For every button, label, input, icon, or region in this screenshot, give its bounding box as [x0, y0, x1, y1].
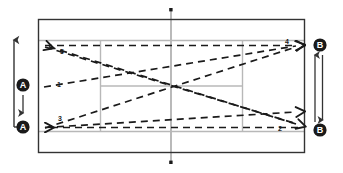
shot-label-1: 1: [57, 81, 61, 88]
marker-b-bottom-label: B: [317, 125, 324, 135]
right-movement-arrow: [315, 55, 323, 122]
net-post-bottom-icon: [169, 161, 172, 164]
marker-a-top[interactable]: A: [16, 78, 29, 91]
shot-path-1: [44, 46, 296, 87]
marker-a-bottom[interactable]: A: [16, 120, 29, 133]
court-drill-diagram: 1 2 3 4 5 A A: [0, 0, 343, 173]
court-diagram-svg: 1 2 3 4 5 A A: [0, 0, 343, 173]
marker-a-top-label: A: [20, 80, 27, 90]
shot-label-3: 3: [58, 115, 62, 122]
shot-label-5: 5: [60, 48, 64, 55]
marker-b-bottom[interactable]: B: [313, 123, 326, 136]
shot-label-4: 4: [285, 38, 289, 45]
marker-a-bottom-label: A: [20, 122, 27, 132]
net-post-top-icon: [169, 8, 172, 11]
marker-b-top-label: B: [317, 40, 324, 50]
marker-b-top[interactable]: B: [313, 38, 326, 51]
shot-number-labels: 1 2 3 4 5: [57, 38, 289, 132]
shot-label-2: 2: [278, 125, 282, 132]
